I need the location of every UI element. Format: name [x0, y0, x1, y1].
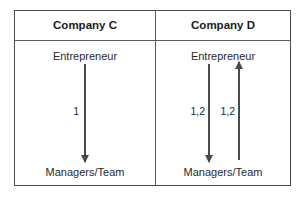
company-comparison-diagram: Company C Company D Entrepreneur 1 Manag…	[0, 0, 302, 198]
diagram-frame	[14, 10, 291, 186]
company-c-entrepreneur-node: Entrepreneur	[15, 48, 155, 64]
company-d-upward-arrow	[238, 62, 240, 160]
company-d-managers-team-node: Managers/Team	[156, 164, 290, 180]
column-header-company-c: Company C	[15, 16, 155, 34]
company-c-flow-label: 1	[46, 104, 79, 118]
company-c-downward-arrow	[84, 64, 86, 162]
column-divider	[155, 10, 156, 186]
company-d-upward-flow-label: 1,2	[202, 104, 235, 118]
company-d-downward-flow-label: 1,2	[172, 104, 205, 118]
column-header-company-d: Company D	[156, 16, 290, 34]
header-separator-rule	[14, 40, 291, 41]
company-d-entrepreneur-node: Entrepreneur	[156, 48, 290, 64]
company-c-managers-team-node: Managers/Team	[15, 164, 155, 180]
